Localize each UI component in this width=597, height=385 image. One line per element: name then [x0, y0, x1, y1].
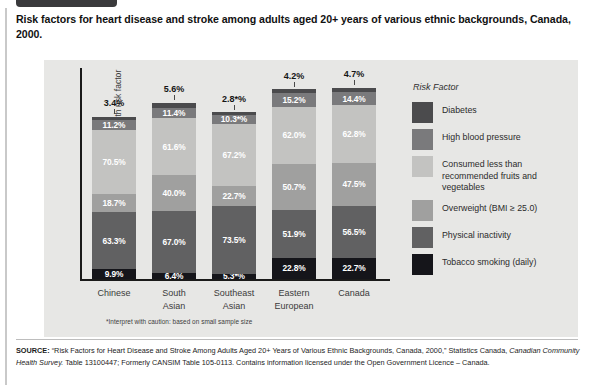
- segment-value: 56.5%: [332, 206, 376, 258]
- segment-value: 47.5%: [332, 163, 376, 206]
- diabetes-value-label: 3.4%: [104, 98, 125, 108]
- legend-item[interactable]: Tobacco smoking (daily): [412, 254, 570, 275]
- legend-item[interactable]: Overweight (BMI ≥ 25.0): [412, 200, 570, 221]
- leader-line: [114, 109, 115, 114]
- segment-value: 70.5%: [92, 130, 136, 195]
- segment-value: 18.7%: [92, 194, 136, 211]
- leader-line: [174, 95, 175, 100]
- leader-line: [294, 82, 295, 87]
- leader-line: [354, 80, 355, 85]
- legend-swatch-icon: [412, 200, 433, 221]
- legend-item-label: High blood pressure: [442, 129, 521, 144]
- leader-line: [234, 105, 235, 110]
- diabetes-value-label: 4.7%: [344, 69, 365, 79]
- legend-swatch-icon: [412, 129, 433, 150]
- segment-value: 10.3*%: [212, 115, 256, 124]
- legend-swatch-icon: [412, 254, 433, 275]
- legend-item[interactable]: High blood pressure: [412, 129, 570, 150]
- segment-value: 5.3*%: [212, 274, 256, 279]
- legend: Risk Factor DiabetesHigh blood pressureC…: [412, 82, 570, 281]
- segment-value: 50.7%: [272, 164, 316, 210]
- segment-value: 61.6%: [152, 118, 196, 174]
- segment-value: 22.8%: [272, 258, 316, 279]
- legend-item-label: Tobacco smoking (daily): [442, 254, 536, 269]
- segment-value: 9.9%: [92, 269, 136, 278]
- segment-value: 63.3%: [92, 212, 136, 270]
- x-tick-line: Canada: [318, 287, 390, 300]
- segment-value: 11.4%: [152, 108, 196, 118]
- bar-south-asian: 11.4%61.6%40.0%67.0%6.4%5.6%: [152, 103, 196, 279]
- source-text-part1: “Risk Factors for Heart Disease and Stro…: [50, 346, 510, 355]
- legend-title: Risk Factor: [413, 82, 570, 92]
- legend-item[interactable]: Diabetes: [412, 102, 570, 123]
- source-note: SOURCE: “Risk Factors for Heart Disease …: [16, 345, 580, 369]
- segment-value: 40.0%: [152, 175, 196, 212]
- legend-items: DiabetesHigh blood pressureConsumed less…: [412, 102, 570, 275]
- x-tick-canada: Canada: [318, 287, 390, 300]
- diabetes-value-label: 2.8*%: [222, 94, 246, 104]
- segment-value: 6.4%: [152, 273, 196, 279]
- plot-area: 11.2%70.5%18.7%63.3%9.9%3.4%11.4%61.6%40…: [80, 68, 386, 281]
- segment-value: 67.0%: [152, 211, 196, 272]
- segment-value: 15.2%: [272, 93, 316, 107]
- segment-value: 62.8%: [332, 105, 376, 162]
- y-axis-line: [80, 68, 82, 281]
- bar-eastern-european: 15.2%62.0%50.7%51.9%22.8%4.2%: [272, 89, 316, 278]
- source-prefix: SOURCE:: [16, 346, 50, 355]
- legend-item[interactable]: Consumed less than recommended fruits an…: [412, 156, 570, 194]
- chart-footnote: *Interpret with caution: based on small …: [106, 318, 252, 325]
- source-divider: [16, 339, 578, 340]
- chart-panel: Percent of population with risk factor 1…: [44, 60, 578, 337]
- legend-swatch-icon: [412, 102, 433, 123]
- legend-item-label: Physical inactivity: [442, 227, 511, 242]
- legend-item-label: Diabetes: [442, 102, 477, 117]
- legend-swatch-icon: [412, 227, 433, 248]
- diabetes-value-label: 5.6%: [164, 84, 185, 94]
- x-tick-line: European: [258, 300, 330, 313]
- bar-southeast-asian: 10.3*%67.2%22.7%73.5%5.3*%2.8*%: [212, 112, 256, 278]
- legend-item-label: Consumed less than recommended fruits an…: [442, 156, 570, 194]
- bar-chinese: 11.2%70.5%18.7%63.3%9.9%3.4%: [92, 117, 136, 279]
- page-title: Risk factors for heart disease and strok…: [16, 12, 576, 42]
- x-axis-line: [80, 279, 390, 282]
- segment-value: 22.7%: [332, 258, 376, 279]
- segment-value: 22.7%: [212, 186, 256, 207]
- source-text-part2: Table 13100447; Formerly CANSIM Table 10…: [63, 358, 489, 367]
- segment-value: 62.0%: [272, 107, 316, 164]
- segment-value: 67.2%: [212, 124, 256, 185]
- segment-value: 14.4%: [332, 92, 376, 105]
- segment-value: 51.9%: [272, 210, 316, 257]
- segment-value: 11.2%: [92, 120, 136, 130]
- bar-canada: 14.4%62.8%47.5%56.5%22.7%4.7%: [332, 88, 376, 279]
- legend-item-label: Overweight (BMI ≥ 25.0): [442, 200, 537, 215]
- segment-value: 73.5%: [212, 206, 256, 273]
- diabetes-value-label: 4.2%: [284, 71, 305, 81]
- legend-swatch-icon: [412, 156, 433, 177]
- legend-item[interactable]: Physical inactivity: [412, 227, 570, 248]
- page-left-rule: [5, 8, 7, 385]
- top-tab-marker: [16, 0, 117, 7]
